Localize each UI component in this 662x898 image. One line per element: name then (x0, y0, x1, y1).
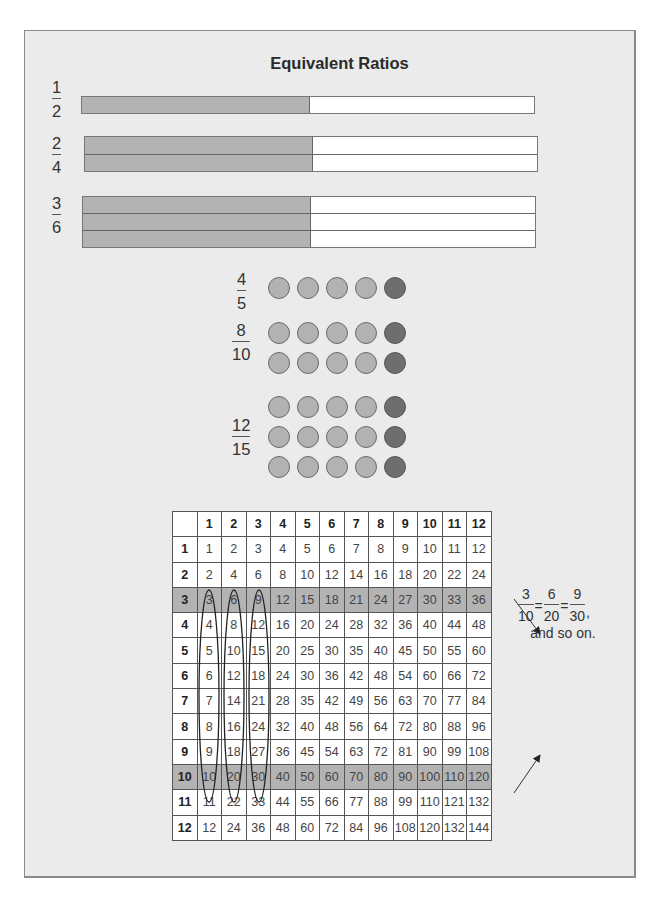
table-cell: 11 (442, 537, 467, 562)
table-row: 3369121518212427303336 (173, 587, 492, 612)
fraction-9-30: 9 30 (570, 586, 586, 624)
table-cell: 90 (393, 764, 418, 789)
table-cell: 14 (344, 562, 369, 587)
table-cell: 36 (320, 663, 345, 688)
fraction-bar (237, 290, 246, 291)
table-cell: 45 (295, 739, 320, 764)
denominator: 5 (237, 294, 246, 312)
table-cell: 12 (222, 663, 247, 688)
table-cell: 60 (295, 815, 320, 840)
table-cell: 24 (467, 562, 492, 587)
numerator: 2 (52, 134, 61, 152)
dot-light (326, 322, 348, 344)
table-cell: 4 (271, 537, 296, 562)
row-header: 4 (173, 613, 198, 638)
numerator: 9 (573, 586, 581, 602)
table-cell: 28 (271, 689, 296, 714)
table-row: 881624324048566472808896 (173, 714, 492, 739)
dot-light (268, 322, 290, 344)
table-cell: 16 (222, 714, 247, 739)
denominator: 4 (52, 158, 61, 176)
table-cell: 90 (418, 739, 443, 764)
table-cell: 35 (295, 689, 320, 714)
row-header: 8 (173, 714, 198, 739)
table-cell: 6 (222, 587, 247, 612)
table-cell: 22 (222, 790, 247, 815)
shaded-portion (83, 197, 311, 247)
dot-dark (384, 322, 406, 344)
fraction-bar-quarters (84, 136, 538, 172)
table-cell: 28 (344, 613, 369, 638)
table-row: 224681012141618202224 (173, 562, 492, 587)
table-cell: 12 (246, 613, 271, 638)
row-header: 10 (173, 764, 198, 789)
fraction-bar (518, 604, 534, 605)
table-cell: 24 (271, 663, 296, 688)
row-divider (85, 154, 537, 155)
table-cell: 40 (418, 613, 443, 638)
table-cell: 9 (246, 587, 271, 612)
table-cell: 16 (369, 562, 394, 587)
table-cell: 48 (467, 613, 492, 638)
row-header: 1 (173, 537, 198, 562)
fraction-bar (544, 604, 560, 605)
table-cell: 108 (393, 815, 418, 840)
table-cell: 132 (442, 815, 467, 840)
dot-light (355, 277, 377, 299)
table-cell: 80 (418, 714, 443, 739)
table-cell: 40 (271, 764, 296, 789)
table-cell: 20 (418, 562, 443, 587)
table-cell: 72 (369, 739, 394, 764)
table-row: 1123456789101112 (173, 537, 492, 562)
table-cell: 15 (295, 587, 320, 612)
numerator: 8 (237, 321, 246, 339)
row-header: 12 (173, 815, 198, 840)
dot-dark (384, 277, 406, 299)
table-cell: 4 (222, 562, 247, 587)
table-cell: 42 (344, 663, 369, 688)
dot-light (355, 322, 377, 344)
table-cell: 32 (369, 613, 394, 638)
table-cell: 36 (393, 613, 418, 638)
table-cell: 21 (246, 689, 271, 714)
table-row: 10102030405060708090100110120 (173, 764, 492, 789)
row-header: 2 (173, 562, 198, 587)
denominator: 6 (52, 218, 61, 236)
dot-light (297, 426, 319, 448)
table-cell: 55 (442, 638, 467, 663)
dot-light (355, 352, 377, 374)
table-cell: 18 (246, 663, 271, 688)
table-cell: 108 (467, 739, 492, 764)
table-cell: 32 (271, 714, 296, 739)
numerator: 3 (522, 586, 530, 602)
dot-light (297, 352, 319, 374)
table-cell: 77 (442, 689, 467, 714)
dot-light (326, 396, 348, 418)
table-cell: 110 (442, 764, 467, 789)
table-cell: 70 (344, 764, 369, 789)
table-cell: 12 (320, 562, 345, 587)
table-cell: 24 (320, 613, 345, 638)
column-header: 1 (197, 512, 222, 537)
table-header-row: 123456789101112 (173, 512, 492, 537)
table-cell: 20 (222, 764, 247, 789)
dot-dark (384, 426, 406, 448)
table-cell: 8 (271, 562, 296, 587)
table-cell: 56 (369, 689, 394, 714)
table-row: 551015202530354045505560 (173, 638, 492, 663)
table-cell: 50 (418, 638, 443, 663)
table-cell: 64 (369, 714, 394, 739)
table-cell: 49 (344, 689, 369, 714)
table-cell: 42 (320, 689, 345, 714)
table-cell: 60 (418, 663, 443, 688)
table-cell: 6 (197, 663, 222, 688)
diagram-frame: Equivalent Ratios 1 2 2 4 3 6 4 5 (24, 30, 636, 878)
table-cell: 44 (442, 613, 467, 638)
table-cell: 2 (197, 562, 222, 587)
table-row: 661218243036424854606672 (173, 663, 492, 688)
row-header: 6 (173, 663, 198, 688)
fraction-label-2-4: 2 4 (52, 134, 61, 176)
table-cell: 96 (467, 714, 492, 739)
table-cell: 48 (320, 714, 345, 739)
table-cell: 40 (295, 714, 320, 739)
